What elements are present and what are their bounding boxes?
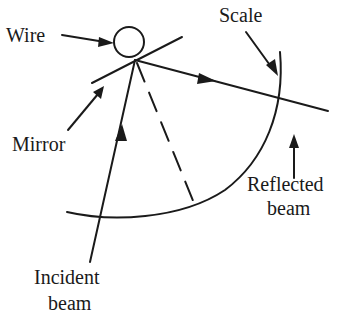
normal-dashed-line [137,63,196,208]
incident-beam-arrowhead-icon [115,124,127,141]
wire-pointer-arrowhead-icon [98,37,114,47]
label-scale: Scale [219,4,262,26]
wire-pointer-line [62,35,105,42]
label-incident-line2: beam [48,292,92,314]
scale-pointer-line [246,32,272,68]
wire-circle [114,27,144,57]
label-incident-line1: Incident [34,266,100,288]
label-mirror: Mirror [12,133,66,155]
reflected-beam-arrowhead-icon [197,73,216,84]
reflected-pointer-arrowhead-icon [289,134,299,148]
label-wire: Wire [6,24,45,46]
optical-lever-diagram: Wire Scale Mirror Reflected beam Inciden… [0,0,340,324]
label-reflected-line1: Reflected [247,173,324,195]
reflected-beam-line [135,60,328,111]
label-reflected-line2: beam [267,197,311,219]
mirror-pointer-line [68,94,98,130]
